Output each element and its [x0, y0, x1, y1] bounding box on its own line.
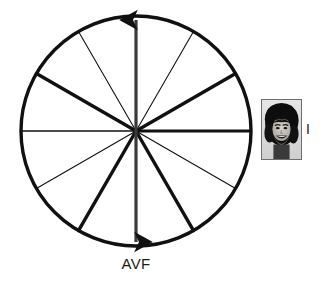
figure-container: AVF I [0, 0, 330, 286]
portrait-eye-right [283, 127, 287, 129]
lead-i-axis-label: I [306, 121, 310, 137]
portrait-eye-left [276, 127, 280, 129]
avf-axis-label: AVF [103, 255, 169, 273]
portrait-photo [261, 99, 302, 160]
